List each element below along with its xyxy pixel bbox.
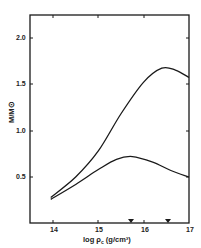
x-axis-title-unit: (g/cm³)	[104, 235, 132, 244]
y-axis-title: M/M⊙	[7, 101, 16, 123]
chart: 2.0 1.5 1.0 0.5 14 15 16 17 M/M⊙ log ρc …	[0, 0, 201, 248]
lower-curve	[51, 156, 189, 199]
y-tick-label: 1.5	[16, 80, 26, 87]
upper-curve	[51, 67, 189, 197]
x-axis-title: log ρc (g/cm³)	[83, 235, 131, 245]
curves	[51, 67, 189, 199]
x-ticks	[53, 15, 144, 223]
y-tick-label: 2.0	[16, 34, 26, 41]
x-axis-title-main: log ρ	[83, 235, 101, 244]
y-tick-label: 1.0	[16, 127, 26, 134]
plot-frame	[30, 15, 189, 223]
x-tick-label: 16	[141, 226, 149, 233]
x-tick-label: 15	[95, 226, 103, 233]
y-ticks	[30, 38, 189, 177]
x-tick-label: 14	[50, 226, 58, 233]
y-tick-label: 0.5	[16, 173, 26, 180]
x-tick-label: 17	[186, 226, 194, 233]
